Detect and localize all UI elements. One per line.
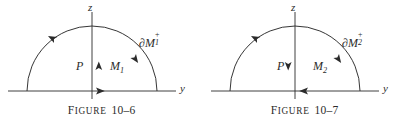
figure-10-6-caption: FIGURE10–6: [0, 104, 203, 116]
boundary-label: ∂M+1: [139, 35, 161, 49]
figure-10-7-diagram: [203, 0, 406, 106]
region-label-index: 1: [120, 66, 124, 75]
region-label-base: M: [110, 59, 120, 73]
boundary-label: ∂M+2: [342, 35, 364, 49]
boundary-label-stack: +2: [358, 35, 364, 47]
boundary-label-stack: +1: [155, 35, 161, 47]
normal-vector-arrow: [285, 62, 292, 71]
caption-word: IGURE: [278, 106, 310, 116]
caption-word: IGURE: [75, 106, 107, 116]
figure-10-7-caption: FIGURE10–7: [203, 104, 406, 116]
boundary-label-index: 1: [155, 39, 159, 47]
arc-arrowhead-right: [333, 54, 344, 65]
boundary-label-base: ∂M: [342, 36, 358, 50]
caption-lead: F: [271, 104, 278, 116]
region-label-base: M: [313, 59, 323, 73]
figure-10-6: z y P M1 ∂M+1 FIGURE10–6: [0, 0, 203, 132]
z-axis-label: z: [291, 2, 295, 13]
boundary-label-base: ∂M: [139, 36, 155, 50]
figure-10-6-diagram: [0, 0, 203, 106]
point-p-label: P: [76, 60, 83, 72]
region-label: M2: [313, 60, 327, 75]
caption-number: 10–7: [315, 104, 339, 116]
arc-arrowhead-right: [130, 54, 141, 65]
y-axis-label: y: [383, 83, 388, 94]
region-label-index: 2: [323, 66, 327, 75]
caption-number: 10–6: [112, 104, 136, 116]
arc-arrowhead-left: [249, 33, 260, 43]
figure-10-7: z y P M2 ∂M+2 FIGURE10–7: [203, 0, 406, 132]
region-label: M1: [110, 60, 124, 75]
figure-page: z y P M1 ∂M+1 FIGURE10–6: [0, 0, 407, 132]
point-p-label: P: [277, 60, 284, 72]
caption-lead: F: [68, 104, 75, 116]
z-axis-label: z: [88, 2, 92, 13]
y-axis-label: y: [180, 83, 185, 94]
boundary-label-index: 2: [358, 39, 362, 47]
arc-arrowhead-left: [46, 33, 57, 43]
normal-vector-arrow: [95, 61, 102, 70]
